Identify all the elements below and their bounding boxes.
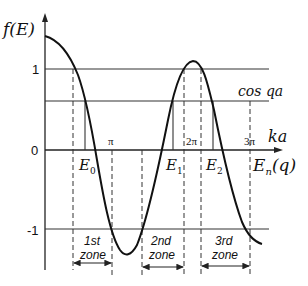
y-axis-label: f(E) — [1, 19, 35, 39]
y-axis-arrow-icon — [42, 13, 48, 22]
tick-label-pi: π — [108, 135, 114, 147]
x-axis-arrow-icon — [274, 147, 283, 153]
energy-label-e1: E1 — [165, 156, 183, 176]
energy-axis-label: En(q) — [252, 155, 296, 177]
tick-label-3pi: 3π — [244, 135, 256, 147]
zone-label-2-line1: 2nd — [150, 234, 171, 248]
zone-label-2-line2: zone — [148, 248, 175, 262]
zone-label-3-line2: zone — [211, 248, 238, 262]
tick-label-zero: 0 — [31, 143, 38, 158]
zone-label-1-line1: 1st — [84, 234, 101, 248]
x-axis-label: ka — [268, 127, 287, 146]
zone-label-1-line2: zone — [79, 248, 106, 262]
tick-label-minus-one: -1 — [27, 223, 39, 238]
energy-label-e0: E0 — [78, 156, 96, 176]
energy-label-e2: E2 — [205, 156, 223, 176]
zone-label-3-line1: 3rd — [215, 234, 233, 248]
cos-qa-label: cos qa — [238, 83, 283, 99]
tick-label-2pi: 2π — [186, 135, 198, 147]
band-structure-diagram: f(E) 1 0 -1 π 2π 3π ka cos qa E0 E1 E2 E… — [0, 0, 308, 286]
tick-label-one: 1 — [32, 62, 39, 77]
zone-arrows — [74, 263, 249, 267]
